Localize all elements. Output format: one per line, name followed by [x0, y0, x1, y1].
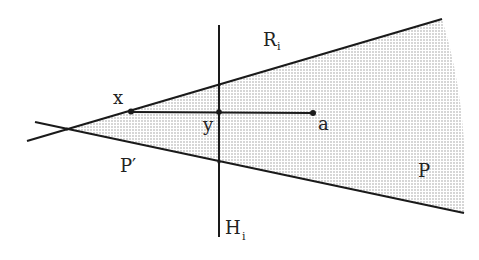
h-upper-intersection [217, 83, 220, 86]
label-h: H [225, 217, 241, 238]
cone-diagram: R i x y a P′ P H i [0, 0, 479, 260]
label-r-subscript: i [277, 40, 281, 53]
h-lower-intersection [217, 160, 220, 163]
label-r: R [263, 29, 277, 50]
label-p: P [418, 160, 430, 181]
point-a [310, 110, 316, 116]
label-a: a [318, 113, 329, 134]
point-x [128, 109, 134, 115]
label-p-prime: P′ [120, 155, 136, 176]
label-h-subscript: i [242, 230, 246, 243]
apex-point [65, 127, 68, 130]
point-y [216, 109, 222, 115]
label-y: y [202, 114, 214, 135]
label-x: x [113, 87, 123, 108]
